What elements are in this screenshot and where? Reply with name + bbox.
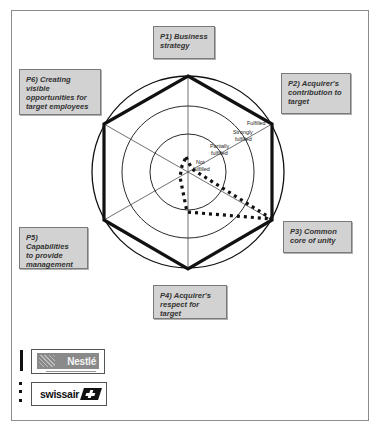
legend-dotted-swatch-2 <box>19 390 22 393</box>
axis-label-p4: P4) Acquirer's respect for target <box>153 285 227 319</box>
scale-label-fulfilled: Fulfilled <box>247 120 266 126</box>
legend-nestle-logo: Nestlé <box>31 349 105 374</box>
scale-label-partial-2: fulfilled <box>211 150 228 156</box>
legend-solid-line-swatch <box>20 350 23 371</box>
scale-label-not: Not <box>196 159 205 165</box>
nest-icon <box>39 355 55 367</box>
swissair-wordmark: swissair <box>40 388 79 400</box>
axis-label-p6: P6) Creating visible opportunities for t… <box>19 69 101 115</box>
scale-label-not-2: fulfilled <box>193 166 210 172</box>
swoosh-decoration <box>46 371 96 372</box>
legend-dotted-swatch-3 <box>19 399 22 402</box>
scale-label-strong: Strongly <box>233 129 253 135</box>
axis-label-p1: P1) Business strategy <box>153 26 215 59</box>
axis-label-p3: P3) Common core of unity <box>283 221 352 253</box>
nestle-wordmark: Nestlé <box>67 356 96 367</box>
swiss-cross-flag-icon <box>80 388 102 400</box>
axis-lines <box>104 76 272 269</box>
legend-dotted-swatch-1 <box>19 382 22 385</box>
scale-label-partial: Partially <box>210 143 229 149</box>
axis-label-p2: P2) Acquirer's contribution to target <box>281 73 351 114</box>
axis-label-p5: P5) Capabilities to provide management <box>19 227 88 269</box>
legend-swissair-logo: swissair <box>31 382 107 406</box>
scale-label-strong-2: fulfilled <box>235 136 252 142</box>
